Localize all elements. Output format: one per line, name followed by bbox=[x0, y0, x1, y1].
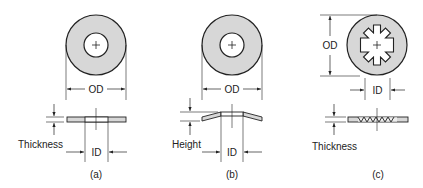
panel-b-curved-washer: OD Height ID (b) bbox=[172, 15, 262, 180]
od-label: OD bbox=[323, 40, 338, 51]
internal-teeth-hole bbox=[0, 0, 398, 43]
thickness-dimension-c: Thickness bbox=[312, 104, 357, 152]
id-dimension-c: ID bbox=[350, 78, 405, 100]
tooth-washer-side-view bbox=[348, 108, 408, 131]
panel-c-tooth-lock-washer: OD ID Thickness (c) bbox=[0, 0, 408, 180]
thickness-label: Thickness bbox=[312, 141, 357, 152]
curved-washer-top-view bbox=[202, 15, 262, 75]
od-label: OD bbox=[89, 84, 104, 95]
caption-a: (a) bbox=[90, 169, 102, 180]
panel-a-flat-washer: OD Thickness ID (a) bbox=[18, 15, 127, 180]
od-label: OD bbox=[225, 84, 240, 95]
thickness-dimension-a: Thickness bbox=[18, 104, 64, 150]
id-label: ID bbox=[92, 147, 102, 158]
height-dimension-b: Height bbox=[172, 98, 218, 150]
caption-c: (c) bbox=[372, 169, 384, 180]
washer-diagram: OD Thickness ID (a) bbox=[0, 0, 423, 188]
caption-b: (b) bbox=[226, 169, 238, 180]
height-label: Height bbox=[172, 139, 201, 150]
thickness-label: Thickness bbox=[18, 139, 63, 150]
curved-washer-side-view bbox=[202, 104, 262, 128]
flat-washer-top-view bbox=[66, 15, 126, 75]
id-label: ID bbox=[373, 85, 383, 96]
id-dimension-a: ID bbox=[66, 122, 127, 162]
id-label: ID bbox=[227, 147, 237, 158]
flat-washer-side-view bbox=[67, 108, 126, 130]
